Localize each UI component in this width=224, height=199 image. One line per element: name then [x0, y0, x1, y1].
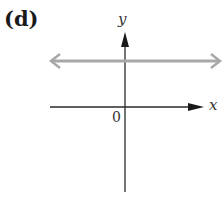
coordinate-plot: [0, 0, 224, 199]
x-axis-label: x: [209, 98, 217, 113]
x-axis: [50, 103, 204, 111]
horizontal-line-graph: [51, 54, 220, 68]
x-axis-arrow-icon: [188, 103, 204, 111]
y-axis: [121, 32, 129, 192]
y-axis-arrow-icon: [121, 32, 129, 47]
figure-canvas: (d) y x 0: [0, 0, 224, 199]
y-axis-label: y: [118, 12, 126, 27]
origin-label: 0: [112, 110, 121, 124]
